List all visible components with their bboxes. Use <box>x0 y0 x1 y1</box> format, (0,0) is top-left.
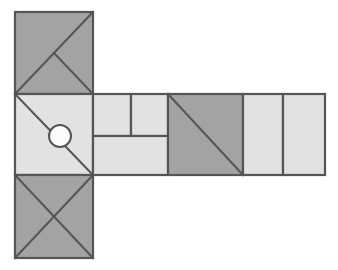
band-upper-left-rectangle[interactable] <box>93 94 131 136</box>
band-upper-right-rectangle[interactable] <box>131 94 168 136</box>
diagram-canvas <box>0 0 338 270</box>
geometric-net-svg <box>0 0 338 270</box>
center-circle[interactable] <box>49 125 71 147</box>
band-lower-rectangle[interactable] <box>93 136 168 175</box>
band-right-rectangle-1[interactable] <box>243 94 283 175</box>
band-right-rectangle-2[interactable] <box>283 94 325 175</box>
